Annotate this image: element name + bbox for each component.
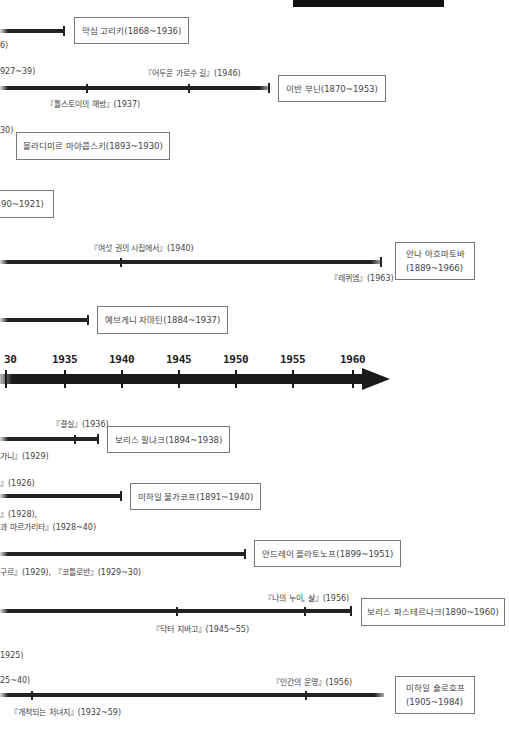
author-box-bulgakov: 미하일 불가코프(1891~1940) — [130, 483, 261, 510]
author-name: 예브게니 자먀틴(1884~1937) — [105, 313, 221, 327]
work-label: 『여섯 권의 시집에서』(1940) — [90, 242, 194, 253]
author-name: 이반 부닌(1870~1953) — [286, 82, 378, 96]
author-box-mayakovsky: 블라디미르 마야콥스키(1893~1930) — [16, 132, 170, 160]
author-name: 미하일 불가코프(1891~1940) — [138, 490, 254, 504]
timeline-bar-pasternak — [0, 609, 351, 613]
top-header-bar — [293, 0, 444, 7]
timeline-bar-akhmatova — [0, 260, 381, 264]
axis-tick — [121, 370, 123, 388]
work-tick — [305, 691, 307, 700]
timeline-bar-bunin — [0, 86, 269, 90]
author-box-bunin: 이반 부닌(1870~1953) — [278, 75, 386, 102]
work-label-fragment: 25~40) — [0, 676, 30, 685]
work-label-fragment: 』(1926) — [0, 477, 35, 488]
work-tick — [188, 84, 190, 93]
author-name: 90~1921) — [0, 197, 44, 211]
work-label: 『인간의 운명』(1956) — [272, 676, 352, 687]
axis-tick — [292, 370, 294, 388]
timeline-axis — [0, 374, 362, 384]
work-label: 『톨스토이의 해방』(1937) — [46, 98, 140, 109]
axis-label: 1940 — [109, 353, 134, 366]
axis-tick — [178, 370, 180, 388]
axis-label: 1950 — [223, 353, 248, 366]
work-label-fragment: 』(1928), — [0, 508, 37, 519]
author-box-sholokhov: 미하일 숄로호프 (1905~1984) — [395, 676, 475, 714]
work-tick — [86, 84, 88, 93]
work-label-fragment: 구르』(1929), 『코틀로반』(1929~30) — [0, 566, 141, 577]
author-dates: (1905~1984) — [406, 695, 463, 709]
author-name: 안나 아흐마토바 — [406, 247, 465, 261]
timeline-bar-gorky — [0, 29, 64, 33]
timeline-bar-pilnyak — [0, 437, 98, 441]
author-box-fragment: 90~1921) — [0, 190, 54, 218]
author-box-platonov: 안드레이 플라토노프(1899~1951) — [254, 540, 401, 567]
timeline-bar-bulgakov — [0, 494, 121, 498]
axis-label: 1955 — [280, 353, 305, 366]
timeline-bar-zamyatin — [0, 318, 88, 322]
work-label-fragment: 927~39) — [0, 67, 35, 76]
author-box-gorky: 막심 고리키(1868~1936) — [74, 17, 189, 44]
axis-label: 1960 — [340, 353, 365, 366]
timeline-bar-platonov — [0, 552, 245, 556]
axis-tick — [64, 370, 66, 388]
work-label-fragment: 6) — [0, 41, 8, 50]
work-label: 『나의 누이, 삶』(1956) — [264, 592, 349, 603]
author-name: 미하일 숄로호프 — [406, 681, 465, 695]
author-name: 안드레이 플라토노프(1899~1951) — [262, 547, 394, 561]
author-box-akhmatova: 안나 아흐마토바 (1889~1966) — [395, 242, 475, 280]
work-label-fragment: 30) — [0, 126, 13, 135]
axis-tick — [352, 370, 354, 388]
axis-label: 1945 — [166, 353, 191, 366]
work-label: 『결실』(1936) — [52, 418, 109, 429]
work-label: 『레퀴엠』(1963) — [330, 272, 394, 283]
author-name: 막심 고리키(1868~1936) — [82, 24, 182, 38]
work-tick — [120, 258, 122, 267]
work-tick — [74, 435, 76, 444]
axis-arrow-icon — [362, 368, 390, 390]
timeline-bar-sholokhov — [0, 693, 384, 697]
work-label: 『닥터 지바고』(1945~55) — [152, 623, 249, 634]
author-name: 보리스 파스테르나크(1890~1960) — [367, 605, 499, 619]
axis-tick — [235, 370, 237, 388]
author-name: 블라디미르 마야콥스키(1893~1930) — [23, 139, 163, 153]
work-tick — [31, 691, 33, 700]
work-tick — [176, 607, 178, 616]
author-box-zamyatin: 예브게니 자먀틴(1884~1937) — [97, 306, 228, 334]
work-label-fragment: 1925) — [0, 651, 23, 660]
author-name: 보리스 필냐크(1894~1938) — [115, 433, 223, 447]
author-dates: (1889~1966) — [406, 261, 463, 275]
work-label: 『개척되는 처녀지』(1932~59) — [10, 706, 121, 717]
work-label: 『어두운 가로수 길』(1946) — [144, 67, 241, 78]
work-tick — [304, 607, 306, 616]
author-box-pasternak: 보리스 파스테르나크(1890~1960) — [361, 598, 505, 626]
axis-label: 30 — [4, 353, 17, 366]
work-label-fragment: 과 마르가리타』(1928~40) — [0, 521, 96, 532]
work-label-fragment: 가니』(1929) — [0, 450, 49, 461]
author-box-pilnyak: 보리스 필냐크(1894~1938) — [107, 426, 230, 453]
axis-label: 1935 — [52, 353, 77, 366]
axis-tick — [5, 370, 7, 388]
